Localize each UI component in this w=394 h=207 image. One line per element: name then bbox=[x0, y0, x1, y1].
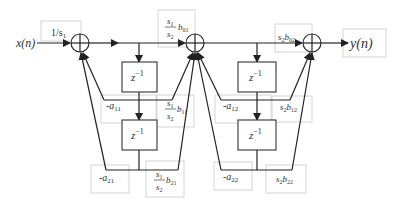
section2-a2-label: -a22 bbox=[223, 171, 239, 184]
output-label: y(n) bbox=[348, 36, 373, 52]
adder-2 bbox=[186, 34, 204, 52]
adder-3 bbox=[303, 34, 321, 52]
svg-text:b01: b01 bbox=[178, 22, 189, 33]
section1-b1-label: s1 s2 b11 bbox=[165, 98, 187, 122]
filter-diagram: z−1 z−1 z−1 z−1 x(n) y(n) 1/s1 s1 s2 b01… bbox=[0, 0, 394, 207]
svg-text:s2: s2 bbox=[167, 111, 174, 122]
svg-text:b11: b11 bbox=[177, 104, 187, 115]
label-boxes bbox=[41, 10, 386, 197]
section2-b1-label: s2b12 bbox=[280, 102, 297, 113]
input-label: x(n) bbox=[15, 36, 35, 50]
delay-box-4: z−1 bbox=[238, 120, 276, 150]
section1-b2-label: s1 s2 b21 bbox=[154, 169, 177, 193]
svg-text:s1: s1 bbox=[167, 16, 174, 27]
svg-text:b21: b21 bbox=[166, 175, 177, 186]
section2-a1-label: -a12 bbox=[223, 100, 239, 113]
section1-a1-label: -a11 bbox=[106, 100, 122, 113]
delay-box-3: z−1 bbox=[238, 62, 276, 92]
section2-b2-label: s2b22 bbox=[276, 174, 293, 185]
svg-text:s2: s2 bbox=[167, 29, 174, 40]
delay-box-1: z−1 bbox=[122, 62, 157, 92]
section1-a2-label: -a21 bbox=[99, 172, 115, 185]
input-gain-label: 1/s1 bbox=[51, 27, 67, 40]
section2-b0-label: s2b02 bbox=[278, 32, 295, 43]
svg-text:s2: s2 bbox=[156, 182, 163, 193]
svg-text:s1: s1 bbox=[156, 169, 163, 180]
section1-b0-label: s1 s2 b01 bbox=[165, 16, 189, 40]
delay-box-2: z−1 bbox=[122, 120, 157, 150]
adder-1 bbox=[71, 34, 89, 52]
